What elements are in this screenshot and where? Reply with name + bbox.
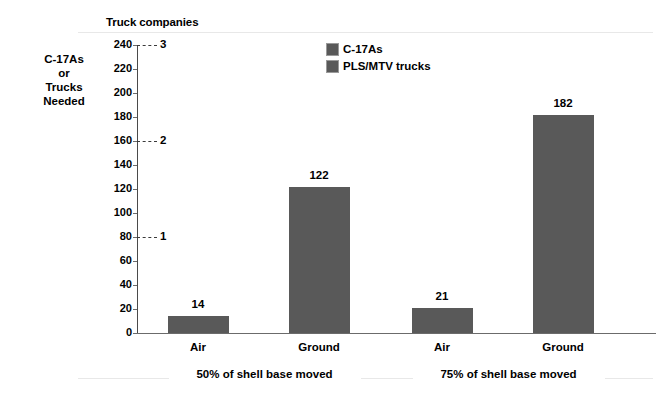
y-tick-label-200: 200 [98,86,132,98]
secondary-tick-line-1 [137,237,157,238]
bar-value-label: 122 [279,169,359,181]
top-divider-rule [78,32,653,33]
y-tick-label-240: 240 [98,38,132,50]
y-tick-label-60: 60 [98,254,132,266]
category-label-ground-3: Ground [518,341,608,353]
y-axis-title-line-2: or [24,66,104,80]
legend-item-c17as: C-17As [326,41,431,57]
y-tick-mark-60 [133,261,137,262]
chart-legend: C-17As PLS/MTV trucks [326,41,431,75]
y-tick-label-100: 100 [98,206,132,218]
y-axis-title: C-17As or Trucks Needed [24,52,104,108]
y-tick-mark-180 [133,117,137,118]
legend-swatch-pls-mtv-trucks [326,60,339,73]
secondary-tick-label-1: 1 [160,230,166,242]
category-label-ground-1: Ground [274,341,364,353]
chart-figure: Truck companies C-17As or Trucks Needed … [0,0,657,394]
y-axis-title-line-4: Needed [24,94,104,108]
y-tick-mark-20 [133,309,137,310]
y-axis-line [137,45,138,334]
y-tick-mark-140 [133,165,137,166]
y-axis-title-line-1: C-17As [24,52,104,66]
y-tick-label-140: 140 [98,158,132,170]
y-tick-mark-120 [133,189,137,190]
secondary-tick-line-3 [137,45,157,46]
secondary-tick-label-3: 3 [160,38,166,50]
legend-swatch-c17as [326,43,339,56]
y-tick-label-180: 180 [98,110,132,122]
secondary-axis-title: Truck companies [106,16,198,28]
group-label-50-percent: 50% of shell base moved [169,368,361,380]
y-tick-label-20: 20 [98,302,132,314]
bar [289,187,350,333]
bar-value-label: 21 [402,290,482,302]
bar [412,308,473,333]
category-label-air-2: Air [397,341,487,353]
y-tick-mark-200 [133,93,137,94]
category-label-air-0: Air [153,341,243,353]
y-tick-label-80: 80 [98,230,132,242]
y-axis-title-line-3: Trucks [24,80,104,94]
legend-label-pls-mtv-trucks: PLS/MTV trucks [343,60,431,72]
secondary-tick-label-2: 2 [160,134,166,146]
y-tick-label-40: 40 [98,278,132,290]
legend-item-pls-mtv-trucks: PLS/MTV trucks [326,58,431,74]
y-tick-mark-0 [133,333,137,334]
y-tick-label-120: 120 [98,182,132,194]
y-tick-mark-100 [133,213,137,214]
x-axis-baseline [137,333,656,334]
bar-value-label: 182 [523,97,603,109]
y-tick-mark-220 [133,69,137,70]
y-tick-label-160: 160 [98,134,132,146]
legend-label-c17as: C-17As [343,43,383,55]
bar-value-label: 14 [158,298,238,310]
y-tick-label-220: 220 [98,62,132,74]
group-label-75-percent: 75% of shell base moved [413,368,605,380]
y-tick-label-0: 0 [98,326,132,338]
secondary-tick-line-2 [137,141,157,142]
bar [168,316,229,333]
bar [533,115,594,333]
y-tick-mark-40 [133,285,137,286]
